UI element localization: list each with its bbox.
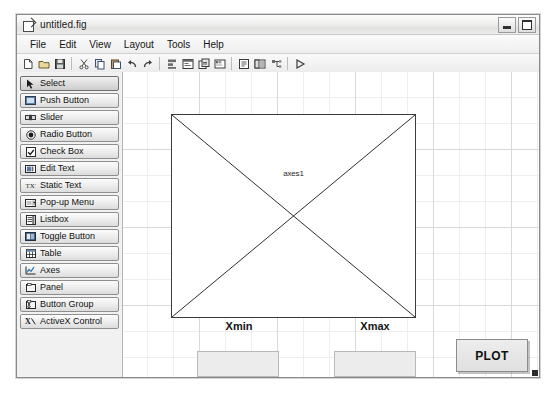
figure-file-icon xyxy=(22,19,35,31)
axes-cross-lines xyxy=(172,115,415,317)
slider-icon xyxy=(25,113,36,123)
menu-editor-button[interactable] xyxy=(180,56,195,71)
new-figure-button[interactable] xyxy=(20,56,35,71)
open-figure-button[interactable] xyxy=(36,56,51,71)
screenshot-root: untitled.fig File Edit View Layout Tools… xyxy=(0,0,556,399)
toolbar-separator xyxy=(287,57,288,70)
svg-text:TXT: TXT xyxy=(26,182,36,190)
property-inspector-button[interactable] xyxy=(252,56,267,71)
palette-item-label: Push Button xyxy=(40,96,89,105)
toolbar-separator xyxy=(71,57,72,70)
palette-item-toggle-button[interactable]: Toggle Button xyxy=(20,229,119,244)
palette-item-label: Select xyxy=(40,79,65,88)
toolbar xyxy=(17,54,539,74)
maximize-icon xyxy=(522,20,532,30)
edit-text-xmin[interactable] xyxy=(197,351,279,377)
palette-item-axes[interactable]: Axes xyxy=(20,263,119,278)
object-browser-button[interactable] xyxy=(268,56,283,71)
menu-item-layout[interactable]: Layout xyxy=(118,38,161,51)
table-icon xyxy=(25,249,36,259)
editor-body: Select Push Button Slider xyxy=(17,72,539,377)
paste-button[interactable] xyxy=(108,56,123,71)
toggle-button-icon xyxy=(25,232,36,242)
guide-layout-editor-window: untitled.fig File Edit View Layout Tools… xyxy=(16,14,540,378)
save-figure-button[interactable] xyxy=(52,56,67,71)
toolbar-separator xyxy=(159,57,160,70)
button-group-icon xyxy=(25,300,36,310)
palette-item-label: Button Group xyxy=(40,300,94,309)
palette-item-label: Static Text xyxy=(40,181,81,190)
window-controls xyxy=(498,17,536,33)
minimize-icon xyxy=(503,26,511,29)
menu-item-file[interactable]: File xyxy=(24,38,53,51)
title-bar: untitled.fig xyxy=(17,15,539,35)
static-text-xmin[interactable]: Xmin xyxy=(199,320,279,332)
push-button-icon xyxy=(25,96,36,106)
palette-item-table[interactable]: Table xyxy=(20,246,119,261)
axes-object[interactable]: axes1 xyxy=(171,114,416,318)
toolbar-editor-button[interactable] xyxy=(212,56,227,71)
menu-item-view[interactable]: View xyxy=(83,38,118,51)
plot-button-label: PLOT xyxy=(475,349,509,363)
palette-item-activex-control[interactable]: X ActiveX Control xyxy=(20,314,119,329)
palette-item-label: Check Box xyxy=(40,147,84,156)
palette-item-label: Slider xyxy=(40,113,63,122)
undo-button[interactable] xyxy=(124,56,139,71)
palette-item-static-text[interactable]: TXT Static Text xyxy=(20,178,119,193)
copy-button[interactable] xyxy=(92,56,107,71)
palette-item-button-group[interactable]: Button Group xyxy=(20,297,119,312)
menu-bar: File Edit View Layout Tools Help xyxy=(17,35,539,54)
static-text-icon: TXT xyxy=(25,181,36,191)
palette-item-check-box[interactable]: Check Box xyxy=(20,144,119,159)
listbox-icon xyxy=(25,215,36,225)
palette-item-slider[interactable]: Slider xyxy=(20,110,119,125)
palette-item-label: Panel xyxy=(40,283,63,292)
cut-button[interactable] xyxy=(76,56,91,71)
palette-item-label: Pop-up Menu xyxy=(40,198,94,207)
window-title: untitled.fig xyxy=(40,19,87,30)
minimize-button[interactable] xyxy=(498,17,516,33)
toolbar-separator xyxy=(231,57,232,70)
palette-item-label: Table xyxy=(40,249,62,258)
palette-item-label: Radio Button xyxy=(40,130,92,139)
palette-item-push-button[interactable]: Push Button xyxy=(20,93,119,108)
align-objects-button[interactable] xyxy=(164,56,179,71)
component-palette: Select Push Button Slider xyxy=(17,72,123,377)
palette-item-label: Axes xyxy=(40,266,60,275)
popup-menu-icon xyxy=(25,198,36,208)
edit-text-xmax[interactable] xyxy=(334,351,416,377)
arrow-pointer-icon xyxy=(25,79,36,89)
menu-item-help[interactable]: Help xyxy=(197,38,231,51)
palette-item-edit-text[interactable]: Edit Text xyxy=(20,161,119,176)
activex-control-icon: X xyxy=(25,317,36,327)
palette-item-panel[interactable]: Panel xyxy=(20,280,119,295)
redo-button[interactable] xyxy=(140,56,155,71)
plot-button[interactable]: PLOT xyxy=(456,339,528,372)
static-text-xmax[interactable]: Xmax xyxy=(335,320,415,332)
edit-text-icon xyxy=(25,164,36,174)
m-file-editor-button[interactable] xyxy=(236,56,251,71)
tab-order-editor-button[interactable] xyxy=(196,56,211,71)
menu-item-edit[interactable]: Edit xyxy=(53,38,83,51)
palette-item-label: Listbox xyxy=(40,215,69,224)
menu-item-tools[interactable]: Tools xyxy=(161,38,197,51)
axes-object-label: axes1 xyxy=(172,169,415,178)
palette-item-label: ActiveX Control xyxy=(40,317,102,326)
palette-item-select[interactable]: Select xyxy=(20,76,119,91)
palette-item-radio-button[interactable]: Radio Button xyxy=(20,127,119,142)
check-box-icon xyxy=(25,147,36,157)
palette-item-listbox[interactable]: Listbox xyxy=(20,212,119,227)
radio-button-icon xyxy=(25,130,36,140)
maximize-button[interactable] xyxy=(518,17,536,33)
resize-grip[interactable] xyxy=(532,370,538,376)
axes-chart-icon xyxy=(25,266,36,276)
palette-item-popup-menu[interactable]: Pop-up Menu xyxy=(20,195,119,210)
panel-icon xyxy=(25,283,36,293)
palette-item-label: Toggle Button xyxy=(40,232,95,241)
run-figure-button[interactable] xyxy=(292,56,307,71)
svg-text:X: X xyxy=(25,317,31,326)
palette-item-label: Edit Text xyxy=(40,164,74,173)
layout-canvas[interactable]: axes1 Xmin Xmax PLOT xyxy=(123,72,539,377)
